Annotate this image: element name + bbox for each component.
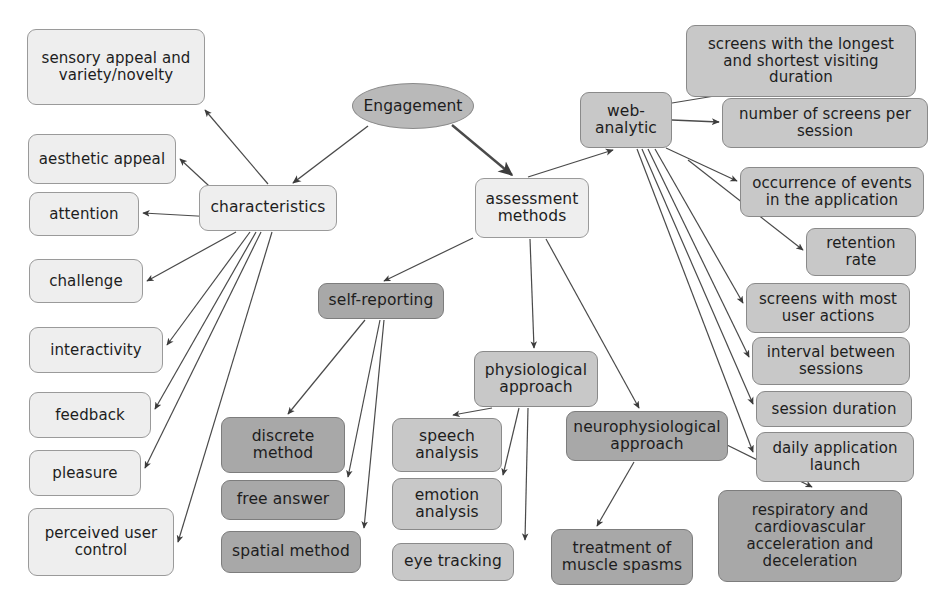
edge-web-analytic-to-interval-between-sessions	[648, 149, 749, 357]
node-daily-application-launch[interactable]: daily application launch	[756, 432, 914, 482]
edge-characteristics-to-interactivity	[167, 232, 250, 345]
node-eye-tracking[interactable]: eye tracking	[392, 543, 514, 581]
node-label: screens with most user actions	[751, 291, 905, 325]
node-label: feedback	[34, 407, 146, 424]
node-label: session duration	[761, 401, 907, 418]
node-screens-most-user-actions[interactable]: screens with most user actions	[746, 283, 910, 333]
node-retention-rate[interactable]: retention rate	[806, 228, 916, 276]
edge-characteristics-to-challenge	[147, 232, 236, 281]
node-emotion-analysis[interactable]: emotion analysis	[392, 478, 502, 530]
edge-assessment-methods-to-web-analytic	[528, 150, 613, 177]
node-engagement[interactable]: Engagement	[352, 83, 474, 129]
edge-web-analytic-to-daily-application-launch	[637, 149, 753, 452]
node-treatment-muscle-spasms[interactable]: treatment of muscle spasms	[551, 529, 693, 585]
edge-self-reporting-to-spatial-method	[364, 320, 384, 528]
edge-engagement-to-assessment-methods	[452, 125, 512, 175]
edge-assessment-methods-to-physiological-approach	[530, 239, 534, 348]
node-label: self-reporting	[323, 292, 439, 309]
node-discrete-method[interactable]: discrete method	[221, 417, 345, 473]
node-pleasure[interactable]: pleasure	[29, 450, 141, 496]
edge-web-analytic-to-occurrence-of-events	[666, 148, 737, 181]
node-label: daily application launch	[761, 440, 909, 474]
node-label: Engagement	[353, 97, 473, 115]
node-label: interactivity	[34, 342, 158, 359]
node-physiological-approach[interactable]: physiological approach	[474, 351, 598, 407]
node-label: treatment of muscle spasms	[556, 540, 688, 575]
node-label: retention rate	[811, 235, 911, 269]
node-occurrence-of-events[interactable]: occurrence of events in the application	[740, 167, 924, 217]
node-label: web- analytic	[585, 103, 667, 138]
node-label: speech analysis	[397, 428, 497, 463]
node-web-analytic[interactable]: web- analytic	[580, 92, 672, 148]
node-feedback[interactable]: feedback	[29, 392, 151, 438]
edge-characteristics-to-feedback	[155, 232, 256, 409]
node-neurophysiological-approach[interactable]: neurophysiological approach	[566, 411, 728, 461]
node-label: eye tracking	[397, 553, 509, 570]
node-number-of-screens[interactable]: number of screens per session	[722, 98, 928, 148]
node-label: screens with the longest and shortest vi…	[691, 36, 911, 86]
node-label: respiratory and cardiovascular accelerat…	[723, 502, 897, 569]
edge-assessment-methods-to-self-reporting	[384, 238, 473, 281]
node-label: discrete method	[226, 428, 340, 463]
node-interval-between-sessions[interactable]: interval between sessions	[752, 337, 910, 385]
node-free-answer[interactable]: free answer	[221, 480, 345, 520]
edge-neurophysiological-approach-to-treatment-muscle-spasms	[597, 462, 634, 526]
edge-self-reporting-to-free-answer	[348, 320, 380, 477]
node-label: physiological approach	[479, 362, 593, 397]
node-label: attention	[34, 206, 134, 223]
edge-web-analytic-to-session-duration	[642, 149, 753, 404]
edge-physiological-approach-to-emotion-analysis	[503, 408, 519, 475]
edges	[143, 92, 812, 542]
node-label: emotion analysis	[397, 487, 497, 522]
node-challenge[interactable]: challenge	[29, 259, 143, 303]
concept-map-canvas: Engagementcharacteristicsassessment meth…	[0, 0, 934, 607]
node-label: aesthetic appeal	[33, 151, 171, 168]
edge-engagement-to-characteristics	[293, 126, 368, 183]
node-sensory-appeal[interactable]: sensory appeal and variety/novelty	[27, 29, 205, 105]
node-perceived-user-control[interactable]: perceived user control	[28, 508, 174, 576]
node-label: characteristics	[204, 199, 332, 216]
node-assessment-methods[interactable]: assessment methods	[475, 178, 589, 238]
node-speech-analysis[interactable]: speech analysis	[392, 418, 502, 472]
node-label: assessment methods	[480, 191, 584, 226]
node-interactivity[interactable]: interactivity	[29, 327, 163, 373]
node-attention[interactable]: attention	[29, 192, 139, 236]
node-label: spatial method	[226, 543, 356, 560]
edge-physiological-approach-to-eye-tracking	[525, 408, 528, 540]
edge-physiological-approach-to-speech-analysis	[453, 408, 492, 415]
node-label: sensory appeal and variety/novelty	[32, 50, 200, 84]
node-self-reporting[interactable]: self-reporting	[318, 283, 444, 319]
node-session-duration[interactable]: session duration	[756, 391, 912, 427]
edge-web-analytic-to-number-of-screens	[672, 120, 719, 122]
node-respiratory-cardiovascular[interactable]: respiratory and cardiovascular accelerat…	[718, 490, 902, 582]
node-label: number of screens per session	[727, 106, 923, 140]
edge-web-analytic-to-screens-most-user-actions	[655, 149, 743, 303]
edge-characteristics-to-sensory-appeal	[205, 110, 268, 184]
node-label: occurrence of events in the application	[745, 175, 919, 209]
node-label: pleasure	[34, 465, 136, 482]
node-label: interval between sessions	[757, 344, 905, 378]
node-label: challenge	[34, 273, 138, 290]
node-characteristics[interactable]: characteristics	[199, 185, 337, 231]
node-aesthetic-appeal[interactable]: aesthetic appeal	[28, 134, 176, 184]
node-label: neurophysiological approach	[571, 419, 723, 454]
node-spatial-method[interactable]: spatial method	[221, 531, 361, 573]
node-label: free answer	[226, 491, 340, 508]
node-label: perceived user control	[33, 525, 169, 559]
edge-self-reporting-to-discrete-method	[288, 320, 365, 414]
node-screens-longest-shortest[interactable]: screens with the longest and shortest vi…	[686, 25, 916, 97]
